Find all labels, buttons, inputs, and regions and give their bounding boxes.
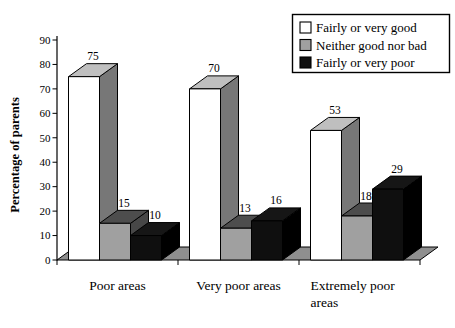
bar-chart-3d: 0102030405060708090Percentage of parents… <box>0 0 455 328</box>
legend-label: Fairly or very poor <box>316 55 415 70</box>
bar-front-face <box>69 77 100 260</box>
bar-value-label: 75 <box>87 50 99 62</box>
y-tick-label: 80 <box>40 58 52 70</box>
legend-item-3: Fairly or very poor <box>300 55 415 70</box>
bar-value-label: 13 <box>239 202 251 214</box>
bar-value-label: 16 <box>270 194 282 206</box>
category-label: Extremely poor <box>311 278 396 293</box>
legend-label: Neither good nor bad <box>316 38 427 53</box>
bar-3-cat-2: 16 <box>252 194 301 260</box>
y-tick-label: 90 <box>40 34 52 46</box>
legend-swatch <box>300 57 311 68</box>
bar-front-face <box>311 130 342 260</box>
bar-value-label: 29 <box>391 163 403 175</box>
legend-swatch <box>300 40 311 51</box>
y-tick-label: 40 <box>40 156 52 168</box>
legend-item-2: Neither good nor bad <box>300 38 427 53</box>
y-tick-label: 10 <box>40 229 52 241</box>
bar-front-face <box>190 89 221 260</box>
category-label: areas <box>311 295 339 310</box>
bar-value-label: 18 <box>360 190 372 202</box>
y-tick-label: 60 <box>40 107 52 119</box>
y-tick-label: 70 <box>40 83 52 95</box>
bar-value-label: 10 <box>149 209 161 221</box>
bar-front-face <box>342 216 373 260</box>
bar-front-face <box>373 189 404 260</box>
category-label: Very poor areas <box>196 278 281 293</box>
legend: Fairly or very goodNeither good nor badF… <box>293 15 450 73</box>
y-tick-label: 0 <box>45 254 51 266</box>
bar-front-face <box>252 221 283 260</box>
bar-value-label: 15 <box>118 197 130 209</box>
category-label: Poor areas <box>89 278 146 293</box>
bar-side-face <box>404 176 422 260</box>
figure: 0102030405060708090Percentage of parents… <box>0 0 455 328</box>
legend-item-1: Fairly or very good <box>300 20 417 35</box>
bar-front-face <box>131 236 162 260</box>
bar-3-cat-3: 29 <box>373 163 422 260</box>
bar-front-face <box>100 223 131 260</box>
legend-label: Fairly or very good <box>316 20 417 35</box>
legend-swatch <box>300 22 311 33</box>
y-tick-label: 50 <box>40 132 52 144</box>
y-axis-title: Percentage of parents <box>8 97 22 213</box>
y-tick-label: 30 <box>40 180 52 192</box>
bar-value-label: 70 <box>208 62 220 74</box>
bar-front-face <box>221 228 252 260</box>
bar-value-label: 53 <box>329 104 341 116</box>
y-tick-label: 20 <box>40 205 52 217</box>
